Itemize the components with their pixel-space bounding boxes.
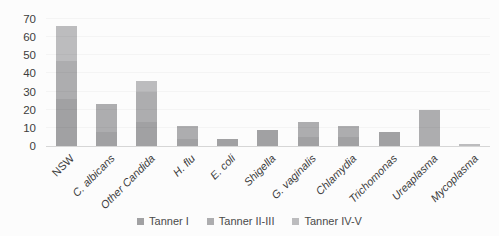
bar-mycoplasma	[459, 144, 480, 146]
x-axis-category-label: NSW	[50, 152, 77, 179]
gridline	[46, 127, 490, 128]
bar-nsw	[56, 26, 77, 146]
bar-segment	[56, 26, 77, 60]
bar-segment	[56, 99, 77, 146]
legend-item: Tanner I	[137, 215, 189, 227]
gridline	[46, 72, 490, 73]
y-tick-label: 60	[23, 31, 36, 43]
legend-swatch-icon	[137, 218, 144, 225]
bar-segment	[96, 132, 117, 147]
x-axis: NSWC. albicansOther CandidaH. fluE. coli…	[46, 148, 490, 210]
bar-segment	[217, 139, 238, 146]
y-tick-label: 30	[23, 86, 36, 98]
bar-ureaplasma	[419, 110, 440, 146]
legend-swatch-icon	[207, 218, 214, 225]
x-axis-category-label: Shigella	[242, 152, 278, 188]
gridline	[46, 91, 490, 92]
bar-segment	[136, 92, 157, 123]
legend-label: Tanner II-III	[219, 215, 275, 227]
y-tick-label: 0	[30, 140, 36, 152]
bar-segment	[56, 61, 77, 99]
bar-c-albicans	[96, 104, 117, 146]
gridline	[46, 109, 490, 110]
gridline	[46, 36, 490, 37]
legend-item: Tanner II-III	[207, 215, 275, 227]
bar-shigella	[257, 130, 278, 146]
legend-item: Tanner IV-V	[292, 215, 361, 227]
y-tick-label: 50	[23, 49, 36, 61]
bar-h-flu	[177, 126, 198, 146]
bar-segment	[298, 122, 319, 137]
bar-segment	[419, 110, 440, 146]
legend-label: Tanner IV-V	[304, 215, 361, 227]
stacked-bar-chart: 010203040506070 NSWC. albicansOther Cand…	[0, 0, 499, 236]
plot-area	[46, 19, 490, 147]
y-tick-label: 40	[23, 67, 36, 79]
legend-label: Tanner I	[149, 215, 189, 227]
y-tick-label: 70	[23, 13, 36, 25]
x-axis-category-label: E. coli	[208, 152, 238, 182]
legend-swatch-icon	[292, 218, 299, 225]
bar-segment	[459, 144, 480, 146]
x-label-slot: Mycoplasma	[450, 148, 490, 210]
gridline	[46, 18, 490, 19]
legend: Tanner ITanner II-IIITanner IV-V	[0, 215, 499, 227]
x-axis-category-label: H. flu	[171, 152, 198, 179]
bar-chlamydia	[338, 126, 359, 146]
y-tick-label: 20	[23, 104, 36, 116]
bar-segment	[298, 137, 319, 146]
bar-e-coli	[217, 139, 238, 146]
y-axis: 010203040506070	[0, 19, 40, 146]
bar-segment	[177, 126, 198, 139]
gridline	[46, 54, 490, 55]
bar-segment	[338, 137, 359, 146]
bar-segment	[379, 132, 400, 147]
x-label-slot: Other Candida	[127, 148, 167, 210]
bar-trichomonas	[379, 132, 400, 147]
y-tick-label: 10	[23, 122, 36, 134]
bar-segment	[257, 130, 278, 146]
x-label-slot: H. flu	[167, 148, 207, 210]
bar-segment	[177, 139, 198, 146]
